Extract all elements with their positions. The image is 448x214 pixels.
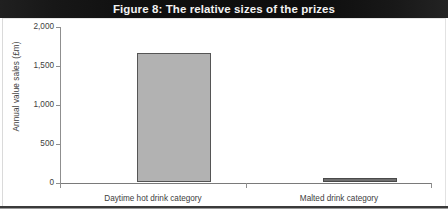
chart-frame: Annual value sales (£m) 2,000 1,500 1,00… [0, 18, 448, 214]
bar-daytime-hot-drink-category [137, 53, 211, 182]
figure-title-text: Figure 8: The relative sizes of the priz… [113, 0, 335, 18]
frame-border-right [445, 18, 446, 208]
y-axis-tick [56, 144, 61, 145]
x-axis-tick [246, 183, 247, 188]
y-tick-label: 2,000 [14, 23, 54, 31]
y-tick-label: 1,000 [14, 101, 54, 109]
y-axis-tick-labels: 2,000 1,500 1,000 500 0 [12, 18, 54, 208]
y-tick-label: 1,500 [14, 62, 54, 70]
x-axis-tick [60, 183, 61, 188]
y-tick-label: 0 [14, 179, 54, 187]
plot-area [60, 27, 432, 183]
frame-border-left [2, 18, 3, 208]
y-axis-tick [56, 105, 61, 106]
y-axis-tick [56, 66, 61, 67]
figure-container: Figure 8: The relative sizes of the priz… [0, 0, 448, 214]
figure-bottom-rule-light [0, 208, 448, 209]
bar-malted-drink-category [323, 178, 397, 182]
x-axis-tick [431, 183, 432, 188]
figure-title-bar: Figure 8: The relative sizes of the priz… [0, 0, 448, 18]
y-axis-tick [56, 27, 61, 28]
frame-border-top [2, 18, 446, 19]
y-tick-label: 500 [14, 140, 54, 148]
x-category-label: Malted drink category [246, 194, 432, 204]
x-category-label: Daytime hot drink category [60, 194, 246, 204]
